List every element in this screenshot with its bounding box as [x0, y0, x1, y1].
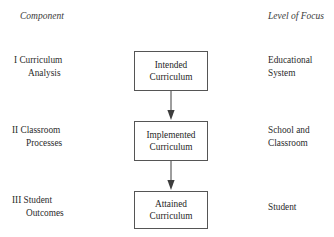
focus-label-educational-system: Educational System: [268, 54, 312, 79]
focus-label-line-1: School and: [268, 124, 310, 137]
flow-box-line-1: Implemented: [146, 129, 195, 142]
component-label-classroom-processes: II Classroom Processes: [12, 124, 62, 149]
focus-label-line-2: Classroom: [268, 137, 310, 150]
component-label-student-outcomes: III Student Outcomes: [12, 194, 64, 219]
flow-box-line-1: Attained: [155, 198, 187, 211]
component-label-line-1: I Curriculum: [14, 54, 62, 67]
focus-label-line-1: Student: [268, 201, 296, 214]
component-label-line-1: II Classroom: [12, 124, 62, 137]
flow-box-intended-curriculum: Intended Curriculum: [134, 51, 208, 91]
flow-box-line-2: Curriculum: [150, 71, 193, 84]
column-header-level-of-focus: Level of Focus: [268, 11, 324, 22]
component-label-curriculum-analysis: I Curriculum Analysis: [14, 54, 62, 79]
arrow-down-icon-implemented-to-attained: [164, 161, 178, 191]
component-label-line-2: Processes: [12, 137, 62, 150]
diagram-canvas: Component Level of Focus I Curriculum An…: [0, 0, 334, 237]
focus-label-line-2: System: [268, 67, 312, 80]
focus-label-student: Student: [268, 201, 296, 214]
component-label-line-2: Outcomes: [12, 207, 64, 220]
component-label-line-1: III Student: [12, 194, 64, 207]
flow-box-implemented-curriculum: Implemented Curriculum: [134, 121, 208, 161]
component-label-line-2: Analysis: [14, 67, 62, 80]
focus-label-line-1: Educational: [268, 54, 312, 67]
flow-box-attained-curriculum: Attained Curriculum: [134, 191, 208, 229]
focus-label-school-and-classroom: School and Classroom: [268, 124, 310, 149]
flow-box-line-1: Intended: [155, 59, 188, 72]
column-header-component: Component: [20, 11, 64, 22]
flow-box-line-2: Curriculum: [150, 210, 193, 223]
arrow-down-icon-intended-to-implemented: [164, 91, 178, 121]
flow-box-line-2: Curriculum: [150, 141, 193, 154]
